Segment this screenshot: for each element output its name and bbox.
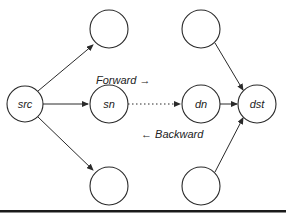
- node-dst-label: dst: [250, 98, 266, 110]
- edge-src-bottomleft: [38, 117, 93, 170]
- node-src-label: src: [18, 98, 33, 110]
- edge-src-topleft: [38, 45, 93, 91]
- node-top-left: [90, 10, 128, 48]
- node-top-right: [182, 10, 220, 48]
- bottom-rule: [0, 210, 286, 213]
- forward-label: Forward →: [96, 74, 150, 86]
- node-bottom-right: [182, 167, 220, 205]
- network-diagram: src sn dn dst Forward → ← Backward: [0, 0, 286, 217]
- edge-bottomright-dst: [215, 118, 243, 172]
- edge-topright-dst: [215, 43, 243, 90]
- backward-label: ← Backward: [141, 128, 204, 140]
- node-dn-label: dn: [195, 98, 207, 110]
- node-bottom-left: [90, 167, 128, 205]
- node-sn-label: sn: [103, 98, 115, 110]
